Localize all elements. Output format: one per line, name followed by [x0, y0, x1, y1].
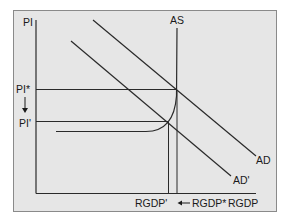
as-label: AS: [170, 14, 184, 26]
rgdp-star-label: RGDP*: [192, 197, 226, 209]
rgdp-prime-label: RGDP': [135, 197, 167, 209]
as-ad-diagram: PI PI* PI' AS AD AD' RGDP' RGDP* RGDP: [0, 0, 291, 224]
ad-prime-label: AD': [233, 174, 250, 186]
pi-star-label: PI*: [16, 83, 30, 95]
ad-label: AD: [256, 154, 271, 166]
x-axis-label: RGDP: [228, 197, 258, 209]
pi-prime-label: PI': [19, 117, 31, 129]
y-axis-label: PI: [23, 16, 33, 28]
